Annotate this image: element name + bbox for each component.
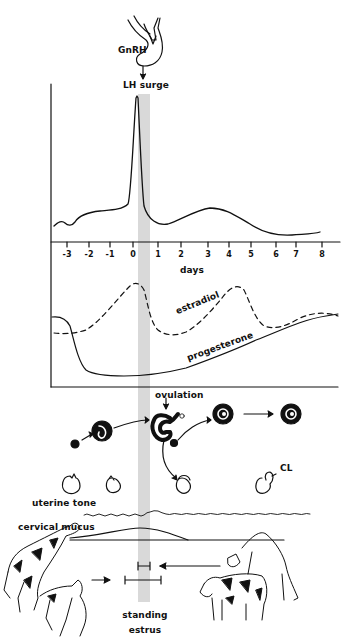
- ovary-2: [106, 476, 120, 493]
- progesterone-curve: [52, 314, 338, 376]
- small-follicle-2: [171, 440, 178, 447]
- small-follicle-1: [71, 440, 79, 448]
- ovary-3: [176, 476, 190, 494]
- tick-label: 3: [205, 250, 211, 259]
- standing-estrus-label-line1: standing: [122, 610, 167, 620]
- tick-label: 0: [130, 250, 136, 259]
- day-ticks: [67, 242, 322, 247]
- tick-label: 8: [319, 250, 325, 259]
- tick-label: 6: [273, 250, 279, 259]
- tick-label: 7: [293, 250, 299, 259]
- x-axis-label: days: [180, 265, 204, 275]
- ovulating-follicle: [152, 414, 178, 440]
- ovaries: [63, 472, 276, 494]
- figure-graphics: [0, 0, 358, 644]
- standing-estrus-label-line2: estrus: [129, 625, 162, 635]
- tick-label: 1: [155, 250, 161, 259]
- estrus-bars: [92, 562, 220, 584]
- ovulation-label: ovulation: [155, 390, 204, 400]
- estrous-cycle-figure: GnRH LH surge -3 -2 -1 0 1 2 3 4 5 6 7 8…: [0, 0, 358, 644]
- tick-label: -1: [106, 250, 115, 259]
- tick-label: 5: [248, 250, 254, 259]
- uterine-tone-label: uterine tone: [32, 498, 96, 508]
- tick-label: -2: [85, 250, 94, 259]
- tick-label: 4: [226, 250, 232, 259]
- cervical-mucus-label: cervical mucus: [18, 522, 95, 532]
- cow-mounting-right-icon: [200, 533, 298, 620]
- follicle-development: [71, 398, 301, 480]
- estradiol-curve: [54, 283, 338, 334]
- tick-label: -3: [63, 250, 72, 259]
- lh-surge-label: LH surge: [123, 80, 169, 90]
- ovary-cl: [256, 472, 273, 493]
- gnrh-label: GnRH: [118, 45, 147, 55]
- cl-label: CL: [280, 463, 293, 473]
- tick-label: 2: [178, 250, 184, 259]
- ovary-1: [63, 474, 80, 494]
- lh-curve: [54, 96, 320, 235]
- uterine-tone-line: [84, 511, 310, 516]
- estrus-band: [138, 94, 150, 602]
